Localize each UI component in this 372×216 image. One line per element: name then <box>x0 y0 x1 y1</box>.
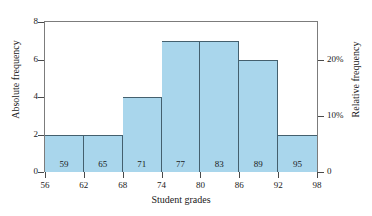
xtick-label-6: 92 <box>263 180 293 190</box>
bar-bin-3: 77 <box>162 41 201 172</box>
y-axis-title-right: Relative frequency <box>350 20 361 140</box>
xtick-label-1: 62 <box>69 180 99 190</box>
bar-bin-4: 83 <box>200 41 239 172</box>
bar-bin-5: 89 <box>239 60 278 173</box>
ytick-right-mark-1 <box>318 116 324 117</box>
xtick-mark-7 <box>317 172 318 178</box>
xtick-label-3: 74 <box>147 180 177 190</box>
bar-bin-0: 59 <box>45 135 84 173</box>
xtick-label-5: 86 <box>224 180 254 190</box>
bar-label-5: 89 <box>239 159 277 169</box>
ytick-right-label-1: 10% <box>327 111 344 120</box>
bar-label-4: 83 <box>200 159 238 169</box>
xtick-label-2: 68 <box>108 180 138 190</box>
ytick-left-mark-4 <box>38 22 44 23</box>
xtick-mark-3 <box>162 172 163 178</box>
bar-bin-2: 71 <box>123 97 162 172</box>
bar-label-3: 77 <box>162 159 200 169</box>
xtick-mark-4 <box>200 172 201 178</box>
bar-bin-6: 95 <box>278 135 317 173</box>
xtick-label-4: 80 <box>185 180 215 190</box>
ytick-left-label-0: 0 <box>16 167 38 176</box>
ytick-left-mark-3 <box>38 60 44 61</box>
xtick-label-0: 56 <box>30 180 60 190</box>
bar-label-6: 95 <box>278 159 317 169</box>
xtick-mark-1 <box>84 172 85 178</box>
xtick-label-7: 98 <box>302 180 332 190</box>
bar-label-2: 71 <box>123 159 161 169</box>
xtick-mark-2 <box>123 172 124 178</box>
ytick-right-mark-2 <box>318 60 324 61</box>
bars-layer: 59 65 71 77 83 89 95 <box>45 22 317 172</box>
xtick-mark-0 <box>45 172 46 178</box>
histogram-chart: 59 65 71 77 83 89 95 0 2 4 6 8 0 10% 20% <box>0 0 372 216</box>
ytick-left-mark-1 <box>38 135 44 136</box>
ytick-left-mark-0 <box>38 172 44 173</box>
xtick-mark-6 <box>278 172 279 178</box>
x-axis-title: Student grades <box>44 194 318 206</box>
ytick-right-label-0: 0 <box>327 167 332 176</box>
xtick-mark-5 <box>239 172 240 178</box>
ytick-right-label-2: 20% <box>327 55 344 64</box>
bar-label-0: 59 <box>45 159 83 169</box>
bar-label-1: 65 <box>84 159 122 169</box>
bar-bin-1: 65 <box>84 135 123 173</box>
ytick-left-mark-2 <box>38 97 44 98</box>
y-axis-title-left: Absolute frequency <box>10 20 21 140</box>
ytick-right-mark-0 <box>318 172 324 173</box>
